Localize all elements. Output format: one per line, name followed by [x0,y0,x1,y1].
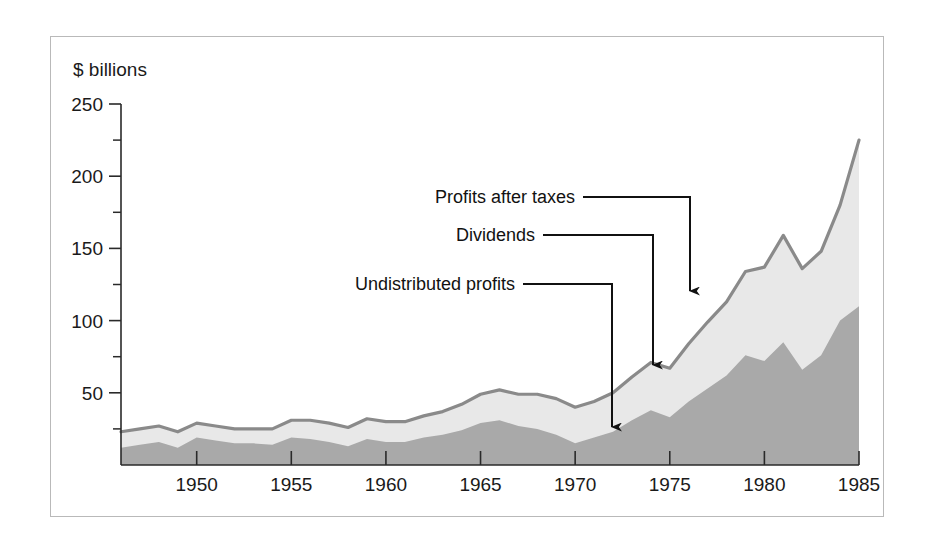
area-chart: 50100150200250 1950195519601965197019751… [51,37,883,516]
x-tick-label: 1960 [365,474,407,495]
chart-frame: 50100150200250 1950195519601965197019751… [50,36,884,517]
y-tick-label: 250 [71,94,103,115]
x-tick-label: 1980 [743,474,785,495]
annotation-label: Undistributed profits [355,274,515,294]
annotation-leader-line [583,197,690,291]
y-axis-ticks [109,104,121,429]
y-tick-label: 50 [82,383,103,404]
figure-root: 50100150200250 1950195519601965197019751… [0,0,929,544]
x-tick-label: 1955 [270,474,312,495]
x-axis-tick-labels: 19501955196019651970197519801985 [176,474,881,495]
y-tick-label: 200 [71,166,103,187]
annotation-leader-line [543,235,653,365]
x-tick-label: 1970 [554,474,596,495]
annotation-label: Dividends [456,225,535,245]
y-tick-label: 100 [71,311,103,332]
x-tick-label: 1965 [459,474,501,495]
x-tick-label: 1950 [176,474,218,495]
y-axis-tick-labels: 50100150200250 [71,94,103,404]
annotation-label: Profits after taxes [435,187,575,207]
y-tick-label: 150 [71,238,103,259]
x-tick-label: 1985 [838,474,880,495]
x-tick-label: 1975 [649,474,691,495]
y-axis: 50100150200250 [71,94,121,465]
y-axis-unit-label: $ billions [73,59,147,80]
